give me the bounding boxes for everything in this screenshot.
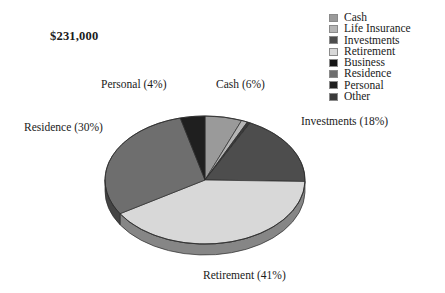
- legend-item[interactable]: Life Insurance: [329, 23, 411, 34]
- legend-item[interactable]: Other: [329, 91, 411, 102]
- legend-swatch-icon: [329, 25, 338, 33]
- legend-swatch-icon: [329, 70, 338, 78]
- chart-total-label: $231,000: [50, 29, 98, 44]
- pie-slices: [105, 116, 305, 255]
- callout-investments: Investments (18%): [301, 115, 388, 127]
- legend-swatch-icon: [329, 93, 338, 101]
- legend-item-label: Life Insurance: [344, 23, 411, 34]
- pie-slice-other[interactable]: [205, 122, 250, 180]
- pie-slice-residence[interactable]: [105, 118, 205, 214]
- pie-slice-wall-residence: [105, 180, 120, 225]
- pie-chart-figure: $231,000 Personal (4%) Cash (6%) Investm…: [0, 0, 445, 293]
- legend-swatch-icon: [329, 48, 338, 56]
- legend-swatch-icon: [329, 81, 338, 89]
- legend-swatch-icon: [329, 59, 338, 67]
- legend-item-label: Other: [344, 91, 370, 102]
- pie-slice-retirement[interactable]: [120, 180, 305, 244]
- chart-legend: CashLife InsuranceInvestmentsRetirementB…: [329, 12, 411, 102]
- callout-retirement: Retirement (41%): [203, 269, 286, 281]
- callout-residence: Residence (30%): [24, 121, 103, 133]
- pie-outline: [105, 116, 305, 244]
- callout-personal: Personal (4%): [101, 78, 166, 90]
- pie-slice-life-insurance[interactable]: [205, 120, 247, 180]
- pie-slice-cash[interactable]: [205, 116, 242, 180]
- pie-slice-personal[interactable]: [180, 116, 205, 180]
- legend-swatch-icon: [329, 36, 338, 44]
- pie-slice-investments[interactable]: [205, 123, 305, 182]
- pie-slice-wall-retirement: [120, 182, 305, 255]
- callout-cash: Cash (6%): [216, 78, 265, 90]
- legend-swatch-icon: [329, 14, 338, 22]
